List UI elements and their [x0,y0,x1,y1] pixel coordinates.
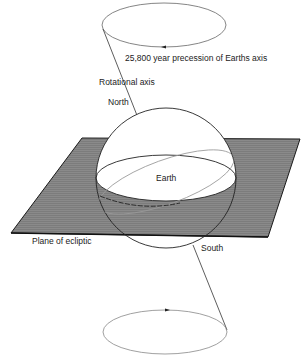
top-precession-ellipse [102,3,226,49]
precession-label: 25,800 year precession of Earths axis [125,54,267,63]
north-label: North [108,98,129,107]
bottom-precession-ellipse [103,309,227,355]
south-label: South [201,244,223,253]
north-axis-line [103,29,140,123]
plane-of-ecliptic-label: Plane of ecliptic [32,237,92,246]
upper-hemisphere [96,108,236,201]
earth-label: Earth [156,174,176,183]
arrow-icon [165,309,170,312]
rotational-axis-label: Rotational axis [99,78,155,87]
arrow-icon [161,46,166,49]
